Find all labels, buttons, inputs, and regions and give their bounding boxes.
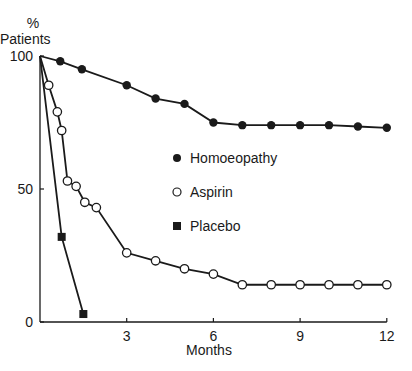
- data-point: [92, 203, 100, 211]
- data-point: [238, 121, 246, 129]
- data-point: [63, 177, 71, 185]
- data-point: [56, 57, 64, 65]
- data-point: [180, 100, 188, 108]
- data-point: [180, 265, 188, 273]
- data-point: [58, 233, 66, 241]
- data-point: [72, 182, 80, 190]
- data-point: [151, 257, 159, 265]
- data-point: [267, 281, 275, 289]
- data-point: [78, 65, 86, 73]
- x-tick-label: 12: [379, 328, 395, 344]
- data-point: [123, 81, 131, 89]
- data-point: [238, 281, 246, 289]
- legend-marker-filled-square-icon: [173, 222, 181, 230]
- data-point: [79, 310, 87, 318]
- data-point: [209, 118, 217, 126]
- y-tick-label: 50: [17, 181, 33, 197]
- legend-homoeopathy: Homoeopathy: [190, 150, 277, 166]
- data-point: [383, 124, 391, 132]
- data-point: [44, 81, 52, 89]
- data-point: [53, 108, 61, 116]
- x-tick-label: 3: [123, 328, 131, 344]
- data-point: [325, 281, 333, 289]
- data-point: [57, 126, 65, 134]
- data-point: [123, 249, 131, 257]
- y-tick-label: 0: [25, 314, 33, 330]
- data-point: [383, 281, 391, 289]
- legend-aspirin: Aspirin: [190, 184, 233, 200]
- data-point: [81, 198, 89, 206]
- series-line-aspirin: [40, 56, 387, 285]
- x-axis-label: Months: [186, 342, 232, 358]
- series-line-homoeopathy: [40, 56, 387, 128]
- x-tick-label: 9: [296, 328, 304, 344]
- data-point: [325, 121, 333, 129]
- legend-marker-filled-circle-icon: [173, 154, 181, 162]
- data-point: [151, 94, 159, 102]
- data-point: [209, 270, 217, 278]
- data-point: [267, 121, 275, 129]
- data-point: [354, 281, 362, 289]
- legend-marker-open-circle-icon: [173, 188, 181, 196]
- y-axis-label-patients: Patients: [0, 31, 51, 47]
- y-tick-label: 100: [10, 48, 34, 64]
- data-point: [296, 281, 304, 289]
- data-point: [296, 121, 304, 129]
- data-point: [354, 122, 362, 130]
- legend-placebo: Placebo: [190, 218, 241, 234]
- y-axis-label-percent: %: [18, 15, 48, 31]
